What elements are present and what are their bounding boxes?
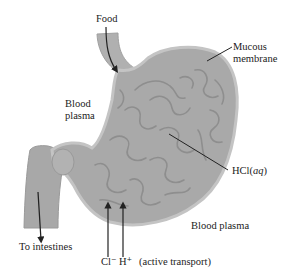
blood-plasma-left-label-line1: Blood [65,98,91,110]
blood-plasma-right-label: Blood plasma [191,220,249,232]
to-intestines-label: To intestines [19,241,72,253]
chloride-ion-label: Cl⁻ [101,256,116,268]
pyloric-sphincter [52,149,74,175]
mucous-membrane-label-line2: membrane [233,53,277,65]
blood-plasma-left-label-line2: plasma [65,110,95,122]
stomach-body [52,47,237,225]
food-label: Food [96,13,118,25]
hcl-close-paren: ) [264,165,268,176]
active-transport-label: (active transport) [139,256,211,268]
hcl-label: HCl(aq) [232,165,267,177]
hcl-formula: HCl( [232,165,253,176]
hcl-state: aq [253,165,264,176]
hydrogen-ion-label: H⁺ [119,256,132,268]
mucous-membrane-label-line1: Mucous [233,41,267,53]
